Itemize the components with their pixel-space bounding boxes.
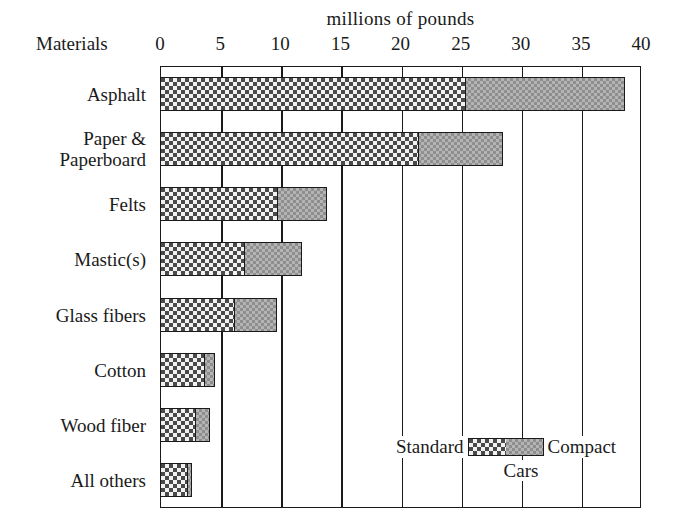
bar-segment-standard: [160, 242, 245, 276]
x-tick-label-0: 0: [155, 33, 165, 55]
legend-row: Standard Compact: [392, 434, 620, 460]
chart-root: millions of pounds Materials 05101520253…: [0, 0, 680, 526]
y-category-label: Felts: [109, 194, 146, 215]
legend-title-text: Cars: [498, 460, 545, 481]
x-tick-label-25: 25: [451, 33, 470, 55]
bar-row: [160, 77, 641, 111]
bar-segment-standard: [160, 77, 466, 111]
bar-segment-compact: [243, 242, 302, 276]
y-category-label: Paper & Paperboard: [59, 128, 146, 170]
legend-label-standard: Standard: [392, 436, 468, 458]
bar-segment-compact: [417, 132, 502, 166]
bar-segment-standard: [160, 187, 278, 221]
x-tick-label-35: 35: [571, 33, 590, 55]
bar-row: [160, 298, 641, 332]
y-category-label: All others: [71, 470, 146, 491]
bar-segment-compact: [464, 77, 625, 111]
bar-row: [160, 353, 641, 387]
legend-title: Cars: [392, 460, 650, 482]
bar-segment-standard: [160, 408, 196, 442]
x-tick-label-10: 10: [271, 33, 290, 55]
y-category-label: Glass fibers: [56, 304, 146, 325]
bar-segment-compact: [277, 187, 328, 221]
legend-swatch: [468, 438, 544, 456]
bar-segment-standard: [160, 132, 419, 166]
x-axis-tick-labels: 0510152025303540: [0, 33, 680, 57]
x-tick-label-5: 5: [215, 33, 225, 55]
legend-swatch-standard: [469, 439, 506, 455]
bar-segment-compact: [233, 298, 276, 332]
bar-row: [160, 242, 641, 276]
bar-segment-compact: [195, 408, 211, 442]
bar-row: [160, 187, 641, 221]
legend-swatch-compact: [506, 439, 543, 455]
y-axis-category-labels: AsphaltPaper & PaperboardFeltsMastic(s)G…: [0, 66, 156, 508]
bar-segment-compact: [203, 353, 215, 387]
bar-segment-standard: [160, 353, 205, 387]
x-tick-label-40: 40: [632, 33, 651, 55]
legend-label-compact: Compact: [544, 436, 621, 458]
y-category-label: Wood fiber: [60, 415, 146, 436]
y-category-label: Cotton: [94, 359, 146, 380]
y-category-label: Asphalt: [87, 83, 146, 104]
chart-title: millions of pounds: [160, 8, 641, 30]
y-category-label: Mastic(s): [74, 249, 146, 270]
x-tick-label-15: 15: [331, 33, 350, 55]
bar-segment-standard: [160, 298, 235, 332]
legend: Standard Compact Cars: [392, 434, 650, 496]
bar-row: [160, 132, 641, 166]
x-tick-label-30: 30: [511, 33, 530, 55]
bar-segment-standard: [160, 463, 188, 497]
x-tick-label-20: 20: [391, 33, 410, 55]
